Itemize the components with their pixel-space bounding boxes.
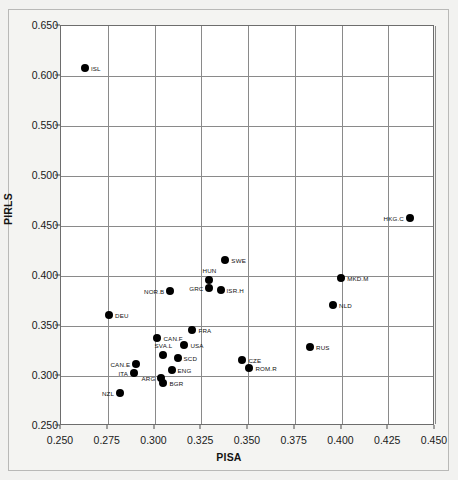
plot-area: ISLHKG.CSWEMKD.MHUNGRCISR.HNOR.BNLDDEUFR… [60, 25, 434, 425]
x-tick-mark [340, 425, 341, 429]
data-point-label: NZL [102, 389, 114, 396]
data-point[interactable] [205, 284, 213, 292]
data-point[interactable] [81, 64, 89, 72]
data-point[interactable] [105, 311, 113, 319]
y-tick-label: 0.600 [0, 69, 58, 81]
data-point[interactable] [188, 326, 196, 334]
x-tick-mark [106, 425, 107, 429]
y-tick-label: 0.400 [0, 269, 58, 281]
data-point[interactable] [174, 354, 182, 362]
y-tick-label: 0.650 [0, 19, 58, 31]
data-point-label: ROM.R [255, 364, 276, 371]
data-point-label: ISL [91, 64, 101, 71]
data-point-label: ENG [178, 367, 192, 374]
data-point[interactable] [159, 379, 167, 387]
data-point[interactable] [238, 356, 246, 364]
data-point[interactable] [245, 364, 253, 372]
data-point[interactable] [180, 341, 188, 349]
x-tick-mark [247, 425, 248, 429]
grid-line-vertical [295, 26, 296, 424]
x-tick-mark [153, 425, 154, 429]
data-point-label: CAN.E [111, 361, 131, 368]
data-point-label: FRA [198, 327, 211, 334]
data-point-label: SWE [231, 257, 246, 264]
grid-line-vertical [108, 26, 109, 424]
data-point[interactable] [159, 351, 167, 359]
data-point-label: DEU [115, 312, 129, 319]
grid-line-horizontal [61, 226, 433, 227]
data-point[interactable] [166, 287, 174, 295]
grid-line-horizontal [61, 126, 433, 127]
grid-line-vertical [435, 26, 436, 424]
data-point-label: HUN [203, 267, 217, 274]
data-point-label: NLD [339, 302, 352, 309]
data-point-label: ITA [118, 369, 128, 376]
y-tick-label: 0.300 [0, 369, 58, 381]
data-point-label: ARG [142, 374, 156, 381]
grid-line-horizontal [61, 276, 433, 277]
x-tick-mark [200, 425, 201, 429]
data-point-label: MKD.M [347, 274, 368, 281]
grid-line-horizontal [61, 176, 433, 177]
data-point[interactable] [217, 286, 225, 294]
data-point[interactable] [306, 343, 314, 351]
data-point-label: CAN.F [163, 334, 182, 341]
data-point-label: SCD [184, 354, 198, 361]
data-point[interactable] [168, 366, 176, 374]
data-point-label: BGR [169, 379, 183, 386]
data-point-label: CZE [248, 357, 261, 364]
data-point-label: ISR.H [227, 287, 244, 294]
grid-line-horizontal [61, 376, 433, 377]
data-point[interactable] [329, 301, 337, 309]
data-point[interactable] [337, 274, 345, 282]
grid-line-vertical [388, 26, 389, 424]
data-point-label: SVA.L [155, 342, 173, 349]
data-point[interactable] [406, 214, 414, 222]
grid-line-vertical [155, 26, 156, 424]
y-tick-label: 0.500 [0, 169, 58, 181]
data-point[interactable] [130, 369, 138, 377]
x-tick-mark [60, 425, 61, 429]
y-tick-label: 0.350 [0, 319, 58, 331]
data-point-label: HKG.C [384, 214, 404, 221]
x-tick-label: 0.450 [404, 434, 458, 446]
data-point-label: NOR.B [144, 287, 164, 294]
grid-line-horizontal [61, 326, 433, 327]
data-point-label: USA [190, 342, 203, 349]
data-point[interactable] [132, 360, 140, 368]
data-point[interactable] [221, 256, 229, 264]
data-point[interactable] [153, 334, 161, 342]
x-tick-mark [434, 425, 435, 429]
y-tick-label: 0.550 [0, 119, 58, 131]
x-tick-mark [387, 425, 388, 429]
grid-line-horizontal [61, 76, 433, 77]
data-point[interactable] [116, 389, 124, 397]
grid-line-vertical [342, 26, 343, 424]
scatter-plot-figure: PIRLS PISA 0.2500.3000.3500.4000.4500.50… [0, 0, 458, 480]
x-axis-label: PISA [0, 451, 458, 463]
grid-line-vertical [201, 26, 202, 424]
y-tick-label: 0.450 [0, 219, 58, 231]
data-point-label: GRC [189, 284, 203, 291]
x-tick-mark [293, 425, 294, 429]
y-tick-label: 0.250 [0, 419, 58, 431]
data-point-label: RUS [316, 344, 330, 351]
